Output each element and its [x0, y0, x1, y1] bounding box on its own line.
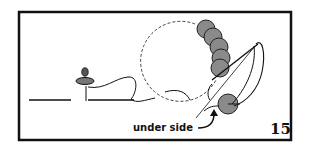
- right-stitch-drawing: [141, 20, 264, 128]
- arrow-icon: [198, 114, 214, 128]
- sequin-row: [197, 20, 238, 114]
- left-stitch-drawing: [29, 68, 155, 102]
- under-side-label: under side: [133, 122, 193, 133]
- figure-number: 15: [270, 120, 291, 138]
